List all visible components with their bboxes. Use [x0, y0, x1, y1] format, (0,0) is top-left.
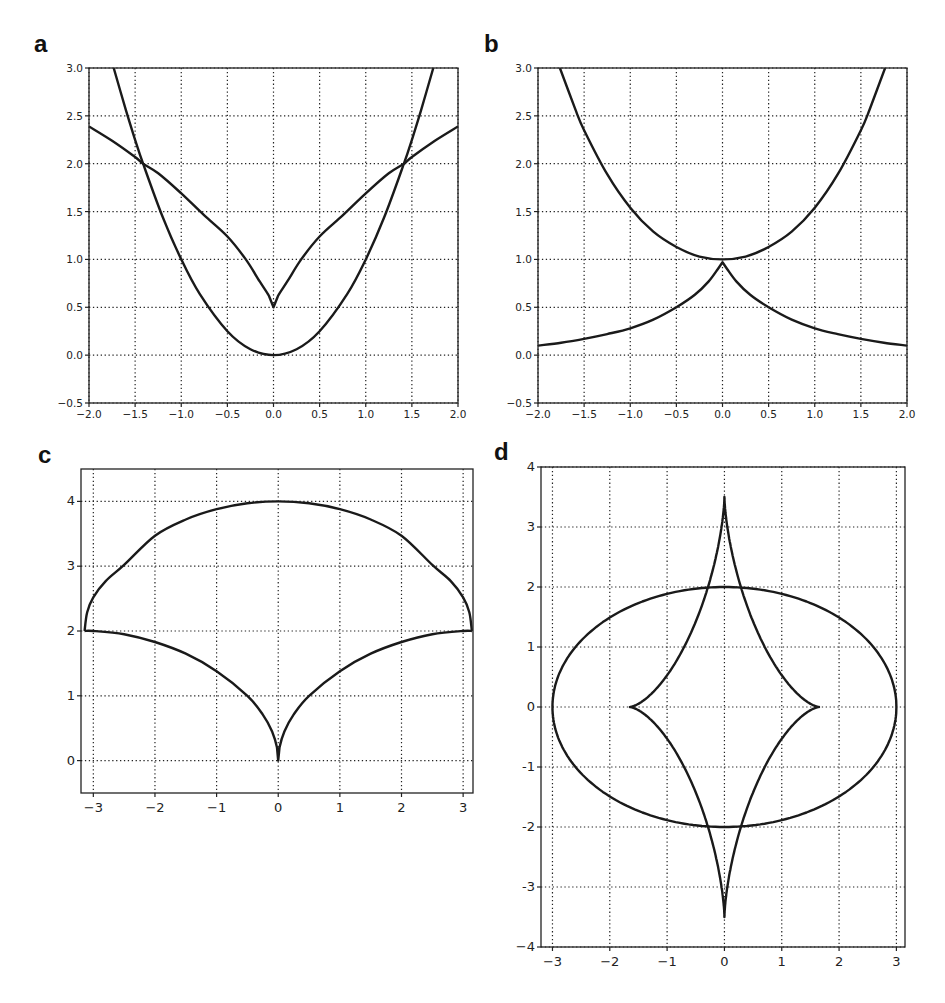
x-tick-label: 2: [397, 800, 405, 815]
y-tick-label: 4: [67, 493, 75, 508]
x-tick-label: 1.5: [853, 408, 870, 420]
y-tick-label: -1: [522, 759, 535, 774]
x-tick-label: −1: [658, 954, 677, 969]
y-tick-label: 1.0: [515, 253, 532, 265]
y-tick-label: 1: [67, 688, 75, 703]
x-tick-label: 1.5: [404, 408, 421, 420]
panel-label-b: b: [484, 30, 499, 57]
figure: a −2.0−1.5−1.0−0.50.00.51.01.52.0−0.50.0…: [0, 0, 945, 1003]
y-tick-label: 3: [527, 519, 535, 534]
x-tick-label: 2: [835, 954, 843, 969]
x-tick-label: 1.0: [357, 408, 374, 420]
y-tick-label: −0.5: [507, 397, 533, 409]
x-tick-label: −1.0: [169, 408, 195, 420]
y-tick-label: 2: [67, 623, 75, 638]
x-tick-label: 0.0: [714, 408, 731, 420]
panel-b: b −2.0−1.5−1.0−0.50.00.51.01.52.0−0.50.0…: [484, 30, 915, 420]
x-tick-label: 3: [459, 800, 467, 815]
x-tick-label: −0.5: [664, 408, 690, 420]
y-tick-label: 1: [527, 639, 535, 654]
y-tick-label: 3: [67, 558, 75, 573]
x-tick-label: −0.5: [215, 408, 241, 420]
y-tick-label: 2: [527, 579, 535, 594]
x-tick-label: 0.5: [311, 408, 328, 420]
panel-label-a: a: [34, 30, 48, 57]
y-tick-label: 2.5: [66, 110, 83, 122]
x-tick-label: 0: [720, 954, 728, 969]
panel-d: d −3−2−10123−4-3-2-101234: [494, 438, 905, 969]
x-tick-label: 0: [274, 800, 282, 815]
y-tick-label: 0.0: [515, 349, 532, 361]
plot-area-b: −2.0−1.5−1.0−0.50.00.51.01.52.0−0.50.00.…: [507, 62, 916, 420]
x-tick-label: 0.5: [760, 408, 777, 420]
y-tick-label: 1.0: [66, 253, 83, 265]
y-tick-label: 3.0: [515, 62, 532, 74]
x-tick-label: −3: [84, 800, 103, 815]
y-tick-label: 0.5: [66, 301, 83, 313]
y-tick-label: 3.0: [66, 62, 83, 74]
y-tick-label: 0.5: [515, 301, 532, 313]
x-tick-label: −2: [145, 800, 164, 815]
x-tick-label: −2.0: [525, 408, 551, 420]
panel-a: a −2.0−1.5−1.0−0.50.00.51.01.52.0−0.50.0…: [34, 30, 466, 420]
x-tick-label: 1.0: [806, 408, 823, 420]
y-tick-label: 2.0: [66, 158, 83, 170]
x-tick-label: 0.0: [265, 408, 282, 420]
y-tick-label: 1.5: [66, 206, 83, 218]
panel-label-c: c: [38, 441, 51, 468]
x-tick-label: −1.0: [618, 408, 644, 420]
y-tick-label: 0: [527, 699, 535, 714]
y-tick-label: 0: [67, 753, 75, 768]
x-tick-label: 1: [336, 800, 344, 815]
y-tick-label: 0.0: [66, 349, 83, 361]
x-tick-label: −1.5: [571, 408, 597, 420]
x-tick-label: 2.0: [899, 408, 916, 420]
x-tick-label: −3: [543, 954, 562, 969]
plot-area-d: −3−2−10123−4-3-2-101234: [516, 459, 905, 969]
x-tick-label: 2.0: [450, 408, 467, 420]
panel-c: c −3−2−1012301234: [38, 441, 473, 815]
x-tick-label: −2: [600, 954, 619, 969]
y-tick-label: 4: [527, 459, 535, 474]
y-tick-label: -3: [522, 879, 535, 894]
x-tick-label: −1.5: [122, 408, 148, 420]
y-tick-label: 2.5: [515, 110, 532, 122]
plot-area-a: −2.0−1.5−1.0−0.50.00.51.01.52.0−0.50.00.…: [58, 62, 467, 420]
y-tick-label: −0.5: [58, 397, 84, 409]
y-tick-label: -2: [522, 819, 535, 834]
y-tick-label: 1.5: [515, 206, 532, 218]
x-tick-label: 3: [892, 954, 900, 969]
x-tick-label: −2.0: [76, 408, 102, 420]
plot-area-c: −3−2−1012301234: [67, 469, 473, 815]
panel-label-d: d: [494, 438, 509, 465]
y-tick-label: 2.0: [515, 158, 532, 170]
y-tick-label: −4: [516, 939, 535, 954]
x-tick-label: −1: [207, 800, 226, 815]
x-tick-label: 1: [778, 954, 786, 969]
